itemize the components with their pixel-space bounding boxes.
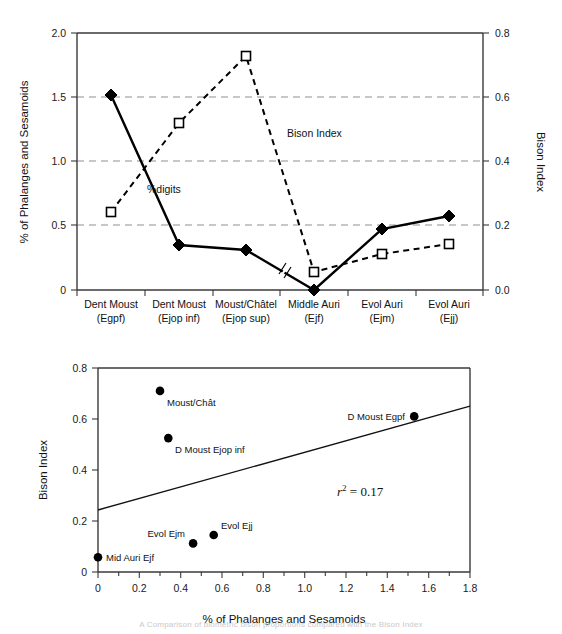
scatter-point-label: Moust/Chât <box>167 397 216 408</box>
percent-digits-inline-label: %digits <box>147 183 181 195</box>
cat-label-3-line2: (Ejf) <box>304 312 323 324</box>
scatter-ytick-label: 0.6 <box>72 413 87 425</box>
marker-open-square <box>107 208 116 217</box>
scatter-points: Moust/Chât D Moust Ejop inf D Moust Egpf… <box>94 387 419 563</box>
marker-open-square <box>378 250 387 259</box>
scatter-point <box>164 434 173 443</box>
scatter-xtick-label: 0.2 <box>132 582 147 594</box>
scatter-point <box>94 553 103 562</box>
scatter-ytick-label: 0.8 <box>72 362 87 374</box>
r-squared-value: = 0.17 <box>347 484 384 499</box>
right-ytick-label: 0.8 <box>495 27 510 39</box>
r-squared-annotation: r2 = 0.17 <box>337 483 384 499</box>
marker-open-square <box>242 52 251 61</box>
cat-label-3-line1: Middle Auri <box>288 298 340 310</box>
top-chart-panel: 2.0 1.5 1.0 0.5 0 0.8 0.6 0.4 0.2 0.0 <box>0 0 562 330</box>
scatter-y-ticks: 0.8 0.6 0.4 0.2 0 <box>72 362 98 578</box>
figure-caption-partial: A Comparison of biometric bison proporti… <box>0 620 562 629</box>
scatter-ytick-label: 0.4 <box>72 464 87 476</box>
category-labels: Dent Moust (Egpf) Dent Moust (Ejop inf) … <box>84 298 470 324</box>
scatter-x-ticks: 0 0.2 0.4 0.6 0.8 1.0 1.2 1.4 1.6 1.8 <box>95 572 477 594</box>
left-ytick-label: 0 <box>60 284 66 296</box>
scatter-point <box>410 412 419 421</box>
scatter-xtick-label: 1.8 <box>463 582 478 594</box>
scatter-xtick-label: 1.0 <box>297 582 312 594</box>
scatter-point <box>209 531 218 540</box>
scatter-ytick-label: 0.2 <box>72 515 87 527</box>
scatter-point-label: D Moust Ejop inf <box>175 444 245 455</box>
marker-open-square <box>310 268 319 277</box>
marker-diamond <box>173 239 185 251</box>
right-ytick-label: 0.0 <box>495 284 510 296</box>
left-ytick-label: 1.0 <box>51 155 66 167</box>
cat-label-2-line1: Moust/Châtel <box>215 298 277 310</box>
marker-open-square <box>445 240 454 249</box>
cat-label-0-line1: Dent Moust <box>84 298 138 310</box>
right-ytick-label: 0.4 <box>495 155 510 167</box>
scatter-point-label: Mid Auri Ejf <box>106 552 154 563</box>
scatter-xtick-label: 0.6 <box>215 582 230 594</box>
marker-diamond <box>105 89 117 101</box>
top-chart-svg: 2.0 1.5 1.0 0.5 0 0.8 0.6 0.4 0.2 0.0 <box>0 0 562 330</box>
category-ticks <box>77 290 483 296</box>
top-chart-ylabel-left: % of Phalanges and Sesamoids <box>18 80 30 243</box>
right-ytick-label: 0.2 <box>495 219 510 231</box>
cat-label-5-line2: (Ejj) <box>440 312 459 324</box>
marker-open-square <box>175 119 184 128</box>
scatter-point <box>189 539 198 548</box>
left-ytick-label: 0.5 <box>51 219 66 231</box>
marker-diamond <box>443 210 455 222</box>
scatter-point-label: Evol Ejj <box>221 520 253 531</box>
figure-container: 2.0 1.5 1.0 0.5 0 0.8 0.6 0.4 0.2 0.0 <box>0 0 562 634</box>
scatter-xtick-label: 0.4 <box>173 582 188 594</box>
scatter-point-label: D Moust Egpf <box>347 411 405 422</box>
scatter-axes <box>98 368 470 572</box>
scatter-chart-svg: 0.8 0.6 0.4 0.2 0 <box>0 330 562 634</box>
left-ytick-label: 1.5 <box>51 91 66 103</box>
marker-diamond <box>240 244 252 256</box>
bison-index-inline-label: Bison Index <box>287 127 343 139</box>
scatter-xtick-label: 1.4 <box>380 582 395 594</box>
scatter-ylabel: Bison Index <box>37 440 49 500</box>
cat-label-5-line1: Evol Auri <box>428 298 469 310</box>
scatter-xtick-label: 0 <box>95 582 101 594</box>
scatter-chart-panel: 0.8 0.6 0.4 0.2 0 <box>0 330 562 634</box>
bison-index-line <box>111 56 449 272</box>
trendline <box>98 406 470 510</box>
scatter-xtick-label: 1.2 <box>339 582 354 594</box>
cat-label-1-line1: Dent Moust <box>152 298 206 310</box>
left-axis-ticks: 2.0 1.5 1.0 0.5 0 <box>51 27 77 296</box>
scatter-xtick-label: 1.6 <box>421 582 436 594</box>
cat-label-4-line1: Evol Auri <box>361 298 402 310</box>
cat-label-2-line2: (Ejop sup) <box>222 312 270 324</box>
top-chart-ylabel-right: Bison Index <box>535 132 547 192</box>
cat-label-0-line2: (Egpf) <box>97 312 126 324</box>
scatter-ytick-label: 0 <box>81 566 87 578</box>
scatter-point-label: Evol Ejm <box>148 528 186 539</box>
left-ytick-label: 2.0 <box>51 27 66 39</box>
cat-label-1-line2: (Ejop inf) <box>158 312 200 324</box>
cat-label-4-line2: (Ejm) <box>369 312 394 324</box>
right-ytick-label: 0.6 <box>495 91 510 103</box>
right-axis-ticks: 0.8 0.6 0.4 0.2 0.0 <box>483 27 510 296</box>
scatter-xtick-label: 0.8 <box>256 582 271 594</box>
scatter-point <box>156 387 165 396</box>
